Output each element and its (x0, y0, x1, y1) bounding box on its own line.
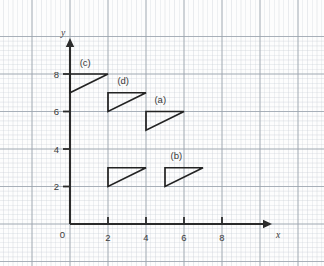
triangle-c-label: (c) (80, 57, 91, 68)
graph-figure: 246824680 (a)(b)(c)(d) xy (0, 0, 324, 266)
grid-minor-lines (0, 0, 324, 266)
x-tick-label-6: 6 (181, 232, 186, 243)
grid-major-lines (0, 0, 324, 266)
triangle-b-label: (b) (171, 150, 183, 161)
shape-labels-group: (a)(b)(c)(d) (80, 57, 183, 162)
y-tick-label-6: 6 (54, 106, 59, 117)
x-axis-label: x (275, 230, 281, 240)
triangle-d-label: (d) (117, 75, 129, 86)
x-tick-label-8: 8 (219, 232, 224, 243)
triangle-a-label: (a) (154, 94, 166, 105)
y-tick-label-4: 4 (54, 144, 59, 155)
y-axis-label: y (60, 28, 66, 38)
coordinate-grid-svg: 246824680 (a)(b)(c)(d) xy (0, 0, 324, 266)
y-axis-arrow-icon (66, 38, 74, 47)
y-tick-label-8: 8 (54, 69, 59, 80)
x-tick-label-2: 2 (105, 232, 110, 243)
origin-label: 0 (60, 229, 65, 240)
x-axis-arrow-icon (263, 220, 272, 228)
x-tick-label-4: 4 (143, 232, 148, 243)
y-tick-label-2: 2 (54, 181, 59, 192)
